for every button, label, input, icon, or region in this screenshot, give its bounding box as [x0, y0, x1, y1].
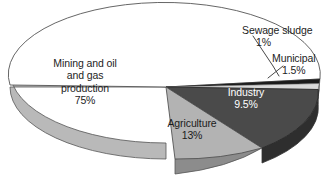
slice-label-agriculture-name: Agriculture — [167, 117, 216, 129]
slice-label-municipal: Municipal 1.5% — [272, 52, 333, 77]
slice-label-mining-line3: production — [61, 82, 109, 94]
slice-label-sewage-sludge-percent: 1% — [242, 36, 332, 48]
slice-label-mining: Mining and oil and gas production 75% — [26, 57, 144, 107]
slice-label-industry-percent: 9.5% — [234, 98, 258, 110]
slice-label-sewage-sludge-name: Sewage sludge — [242, 24, 313, 36]
slice-label-sewage-sludge: Sewage sludge 1% — [242, 24, 332, 49]
slice-label-mining-percent: 75% — [75, 94, 96, 106]
slice-label-industry: Industry 9.5% — [205, 86, 287, 111]
slice-label-municipal-name: Municipal — [272, 52, 315, 64]
pie-chart: Mining and oil and gas production 75% Ag… — [0, 0, 333, 186]
slice-label-mining-line1: Mining and oil — [53, 57, 116, 69]
slice-label-mining-line2: and gas — [67, 69, 104, 81]
slice-label-agriculture-percent: 13% — [182, 129, 203, 141]
slice-label-agriculture: Agriculture 13% — [140, 117, 244, 142]
slice-label-municipal-percent: 1.5% — [272, 64, 333, 76]
slice-label-industry-name: Industry — [228, 86, 265, 98]
